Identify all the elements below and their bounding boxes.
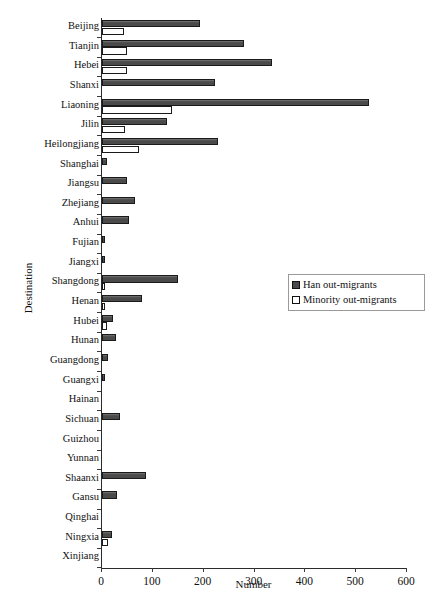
category-label: Gansu — [4, 491, 99, 503]
category-label: Hebei — [4, 59, 99, 71]
bar-han — [102, 354, 108, 361]
bar-han — [102, 531, 112, 538]
bar-han — [102, 158, 107, 165]
category-label: Shanxi — [4, 79, 99, 91]
category-label: Yunnan — [4, 452, 99, 464]
empty-square-icon — [292, 296, 300, 304]
bar-row: Fujian — [101, 234, 406, 254]
bar-row: Ningxia — [101, 529, 406, 549]
bar-han — [102, 491, 117, 498]
bar-row: Tianjin — [101, 38, 406, 58]
legend-item-minority: Minority out-migrants — [292, 292, 421, 307]
bar-row: Zhejiang — [101, 195, 406, 215]
bar-minority — [102, 106, 172, 113]
bar-row: Jiangxi — [101, 254, 406, 274]
bar-chart-figure: Destination BeijingTianjinHebeiShanxiLia… — [0, 0, 435, 616]
bar-row: Guizhou — [101, 431, 406, 451]
category-label: Anhui — [4, 216, 99, 228]
bar-han — [102, 315, 113, 322]
bar-han — [102, 197, 135, 204]
bar-han — [102, 216, 129, 223]
x-axis-tick — [406, 568, 407, 572]
bar-row: Liaoning — [101, 97, 406, 117]
category-label: Guangxi — [4, 374, 99, 386]
x-axis-tick — [355, 568, 356, 572]
figure-caption — [36, 604, 426, 615]
bar-row: Hainan — [101, 391, 406, 411]
filled-square-icon — [292, 281, 300, 289]
category-label: Hunan — [4, 334, 99, 346]
category-label: Shaanxi — [4, 472, 99, 484]
category-label: Hainan — [4, 393, 99, 405]
bar-minority — [102, 67, 127, 74]
bar-minority — [102, 283, 105, 290]
bar-han — [102, 256, 105, 263]
bar-han — [102, 295, 142, 302]
bar-row: Jilin — [101, 116, 406, 136]
bar-minority — [102, 539, 108, 546]
x-axis-tick — [152, 568, 153, 572]
x-axis-tick — [101, 568, 102, 572]
bar-row: Jiangsu — [101, 175, 406, 195]
category-label: Shanghai — [4, 158, 99, 170]
bar-minority — [102, 47, 127, 54]
bar-row: Guangdong — [101, 352, 406, 372]
bar-han — [102, 118, 167, 125]
bar-row: Shanghai — [101, 156, 406, 176]
x-axis-label: Number — [101, 578, 406, 590]
category-label: Zhejiang — [4, 197, 99, 209]
bar-han — [102, 177, 127, 184]
bar-han — [102, 374, 105, 381]
bar-han — [102, 275, 178, 282]
bar-row: Sichuan — [101, 411, 406, 431]
category-label: Tianjin — [4, 40, 99, 52]
bar-minority — [102, 303, 105, 310]
bar-han — [102, 99, 369, 106]
bar-row: Hebei — [101, 57, 406, 77]
bar-han — [102, 236, 105, 243]
bar-row: Beijing — [101, 18, 406, 38]
category-label: Qinghai — [4, 511, 99, 523]
x-axis-tick — [203, 568, 204, 572]
bar-row: Heilongjiang — [101, 136, 406, 156]
category-label: Guangdong — [4, 354, 99, 366]
category-label: Jiangxi — [4, 256, 99, 268]
category-label: Beijing — [4, 20, 99, 32]
bar-row: Guangxi — [101, 372, 406, 392]
chart-legend: Han out-migrants Minority out-migrants — [288, 274, 425, 311]
bar-row: Yunnan — [101, 450, 406, 470]
legend-label-han: Han out-migrants — [303, 279, 377, 290]
x-axis-tick — [304, 568, 305, 572]
category-label: Shangdong — [4, 275, 99, 287]
bar-row: Xinjiang — [101, 548, 406, 568]
bar-minority — [102, 126, 125, 133]
bar-row: Shanxi — [101, 77, 406, 97]
category-label: Ningxia — [4, 531, 99, 543]
bar-row: Gansu — [101, 489, 406, 509]
bar-minority — [102, 146, 139, 153]
bar-han — [102, 20, 200, 27]
bar-han — [102, 138, 218, 145]
category-label: Sichuan — [4, 413, 99, 425]
bar-han — [102, 334, 116, 341]
x-axis-tick — [254, 568, 255, 572]
bar-row: Qinghai — [101, 509, 406, 529]
category-label: Xinjiang — [4, 550, 99, 562]
bar-row: Shaanxi — [101, 470, 406, 490]
bar-row: Hubei — [101, 313, 406, 333]
bar-han — [102, 40, 244, 47]
bar-han — [102, 413, 120, 420]
bar-row: Hunan — [101, 332, 406, 352]
bar-han — [102, 79, 215, 86]
legend-label-minority: Minority out-migrants — [303, 294, 397, 305]
category-label: Heilongjiang — [4, 138, 99, 150]
bar-minority — [102, 28, 124, 35]
category-label: Liaoning — [4, 99, 99, 111]
category-label: Hubei — [4, 315, 99, 327]
category-label: Jiangsu — [4, 177, 99, 189]
bar-row: Anhui — [101, 214, 406, 234]
category-label: Fujian — [4, 236, 99, 248]
category-label: Henan — [4, 295, 99, 307]
bar-minority — [102, 322, 107, 329]
category-label: Jilin — [4, 118, 99, 130]
